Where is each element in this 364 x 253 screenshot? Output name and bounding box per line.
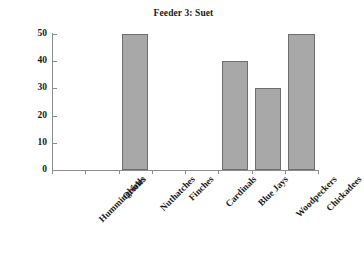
y-tick-label: 50 <box>38 28 48 38</box>
y-tick-label: 10 <box>38 137 48 147</box>
x-tick <box>119 170 120 174</box>
bar <box>255 88 282 170</box>
x-tick-label: Blue Jays <box>256 174 290 208</box>
plot-area <box>52 34 318 170</box>
x-tick <box>218 170 219 174</box>
x-tick-label: Cardinals <box>223 174 258 209</box>
y-tick-label: 20 <box>38 110 48 120</box>
x-tick <box>285 170 286 174</box>
x-tick <box>185 170 186 174</box>
x-tick <box>85 170 86 174</box>
x-tick <box>52 170 53 174</box>
x-axis-label: Cardinals <box>223 174 258 209</box>
x-tick <box>152 170 153 174</box>
bar <box>222 61 249 170</box>
chart-title: Feeder 3: Suet <box>0 8 329 18</box>
x-tick <box>318 170 319 174</box>
bar <box>288 34 315 170</box>
bar <box>122 34 149 170</box>
y-tick-label: 30 <box>38 82 48 92</box>
y-tick-label: 0 <box>42 164 47 174</box>
y-tick-label: 40 <box>38 55 48 65</box>
x-axis-label: Blue Jays <box>256 174 290 208</box>
